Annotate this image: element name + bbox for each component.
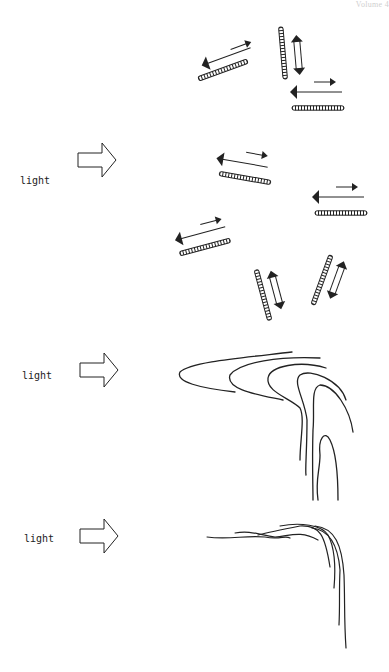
double-arrow-icon xyxy=(290,35,305,76)
chloroplast-rod xyxy=(292,106,344,110)
chloroplast-rod xyxy=(219,171,271,184)
small-arrow-icon xyxy=(245,148,268,160)
chloroplast-rod xyxy=(179,238,230,256)
light-arrow-icon-panel-2 xyxy=(78,143,116,177)
small-arrow-icon xyxy=(199,215,222,228)
light-arrow-icon-panel-4 xyxy=(80,519,118,553)
small-arrow-icon xyxy=(336,183,358,191)
movement-arrow-icon xyxy=(290,85,342,99)
panel-1-diagram xyxy=(198,27,344,110)
light-arrow-icon-panel-3 xyxy=(80,353,118,387)
chloroplast-rod xyxy=(311,255,333,305)
panel-3-diagram xyxy=(179,352,353,500)
movement-arrow-icon xyxy=(312,190,364,204)
panel-2-diagram xyxy=(173,148,367,320)
chloroplast-rod xyxy=(279,27,288,79)
small-arrow-icon xyxy=(314,78,336,86)
panel-4-diagram xyxy=(207,524,346,648)
chloroplast-rod xyxy=(315,211,367,215)
